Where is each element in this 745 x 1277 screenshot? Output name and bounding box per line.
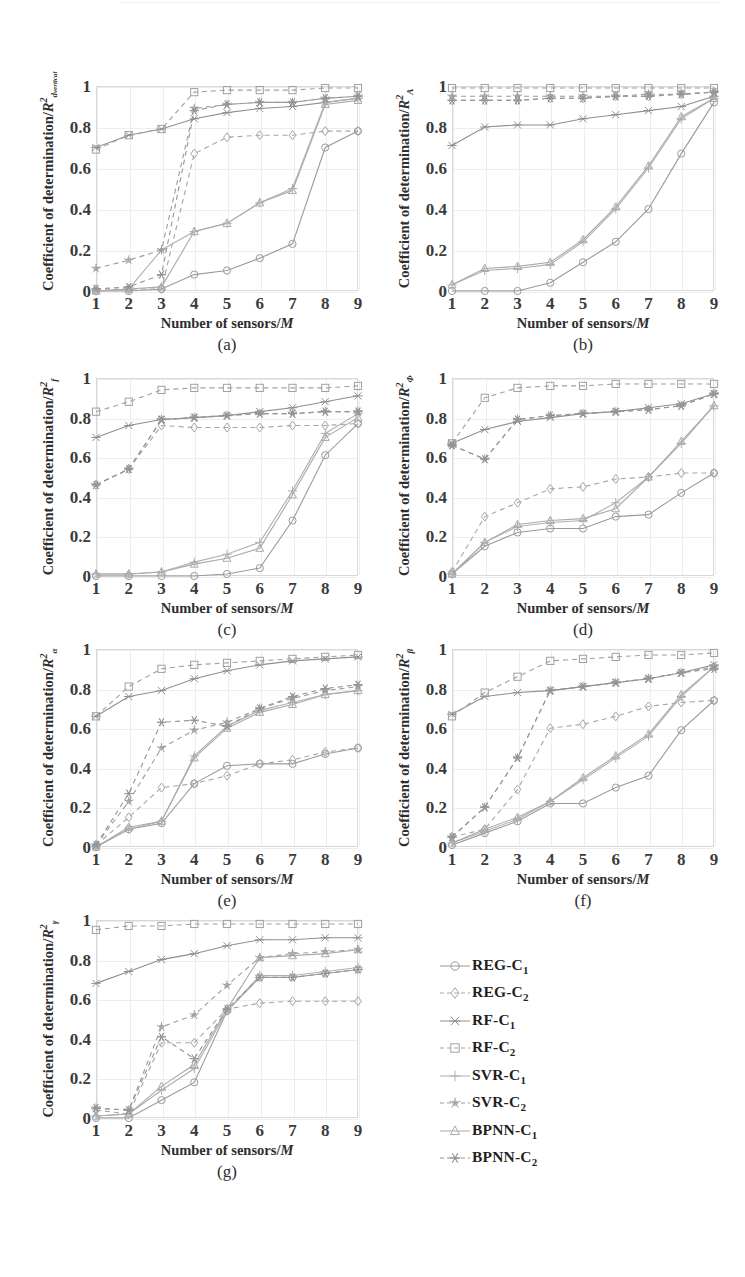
x-tick-label: 5 [579, 295, 588, 312]
x-tick-label: 5 [223, 295, 232, 312]
x-axis-title-f: Number of sensors/M [517, 871, 650, 888]
series-marker-SVR-C1 [157, 1086, 166, 1095]
y-axis-title-b: Coefficient of determination/R2A [394, 86, 415, 291]
y-tick-label: 0.6 [70, 720, 91, 737]
legend-item-SVRC1: SVR-C1 [438, 1062, 668, 1090]
series-marker-BPNN-C2 [190, 716, 199, 724]
x-tick-label: 9 [354, 295, 363, 312]
series-marker-SVR-C2 [157, 1022, 166, 1031]
x-tick-label: 3 [157, 851, 166, 868]
series-marker-RF-C1 [91, 980, 100, 987]
circle-marker [438, 956, 472, 976]
legend-item-BPNNC1: BPNN-C1 [438, 1117, 668, 1145]
asterisk-marker [438, 1148, 472, 1168]
series-line-BPNN-C2 [96, 685, 358, 845]
x-tick-label: 3 [157, 1122, 166, 1139]
series-marker-REG-C2 [158, 783, 165, 792]
y-tick-label: 0.2 [70, 242, 91, 259]
x-tick-label: 6 [612, 580, 621, 597]
x-tick-label: 7 [288, 851, 297, 868]
y-tick-label: 0.2 [426, 528, 447, 545]
y-tick-label: 0.6 [426, 160, 447, 177]
y-tick-label: 0.8 [426, 409, 447, 426]
series-layer-e [96, 649, 358, 847]
x-tick-label: 6 [256, 851, 265, 868]
x-tick-label: 6 [612, 851, 621, 868]
series-marker-BPNN-C2 [513, 96, 522, 104]
x-tick-label: 3 [513, 295, 522, 312]
series-layer-a [96, 86, 358, 291]
x-tick-label: 1 [92, 580, 101, 597]
series-marker-RF-C1 [222, 667, 231, 674]
y-tick-label: 1 [439, 641, 448, 658]
y-tick-label: 0.2 [426, 242, 447, 259]
x-tick-label: 1 [92, 851, 101, 868]
x-tick-label: 5 [579, 580, 588, 597]
subplot-caption-c: (c) [218, 620, 237, 640]
x-tick-label: 1 [92, 295, 101, 312]
subplot-c: 00.20.40.60.81123456789Number of sensors… [96, 378, 358, 576]
y-axis-title-a: Coefficient of determination/R2dvertical [38, 86, 59, 291]
x-axis-title-e: Number of sensors/M [161, 871, 294, 888]
series-marker-RF-C1 [480, 123, 489, 130]
y-tick-label: 0.8 [426, 680, 447, 697]
y-tick-label: 0 [439, 568, 448, 585]
x-tick-label: 8 [321, 295, 330, 312]
x-tick-label: 2 [481, 295, 490, 312]
subplot-f: 00.20.40.60.81123456789Number of sensors… [452, 649, 714, 847]
series-marker-RF-C1 [321, 398, 330, 405]
series-marker-SVR-C1 [255, 538, 264, 547]
y-tick-label: 1 [83, 78, 92, 95]
series-marker-RF-C1 [222, 109, 231, 116]
series-marker-RF-C1 [677, 103, 686, 110]
series-line-BPNN-C1 [452, 667, 714, 843]
legend-label: BPNN-C1 [472, 1121, 537, 1141]
series-marker-SVR-C1 [190, 1064, 199, 1073]
subplot-caption-d: (d) [573, 620, 593, 640]
x-tick-label: 9 [710, 580, 719, 597]
y-tick-label: 0 [83, 1110, 92, 1127]
y-tick-label: 0.6 [426, 720, 447, 737]
series-line-REG-C2 [96, 131, 358, 289]
x-tick-label: 7 [644, 851, 653, 868]
x-tick-label: 2 [125, 580, 134, 597]
x-tick-label: 4 [546, 295, 555, 312]
series-marker-REG-C2 [580, 720, 587, 729]
y-tick-label: 0.2 [70, 528, 91, 545]
x-tick-label: 9 [354, 851, 363, 868]
series-marker-SVR-C2 [222, 980, 231, 989]
subplot-a: 00.20.40.60.81123456789Number of sensors… [96, 86, 358, 291]
x-tick-label: 1 [448, 851, 457, 868]
series-layer-d [452, 378, 714, 576]
y-tick-label: 0.6 [70, 991, 91, 1008]
y-tick-label: 0 [83, 839, 92, 856]
y-tick-label: 1 [83, 641, 92, 658]
series-marker-RF-C1 [353, 934, 362, 941]
series-marker-REG-C2 [191, 149, 198, 158]
x-tick-label: 4 [546, 580, 555, 597]
series-marker-RF-C1 [611, 111, 620, 118]
series-layer-f [452, 649, 714, 847]
y-tick-label: 1 [439, 78, 448, 95]
x-axis-title-c: Number of sensors/M [161, 600, 294, 617]
x-tick-label: 3 [157, 580, 166, 597]
legend-label: SVR-C2 [472, 1093, 526, 1113]
series-marker-RF-C1 [91, 434, 100, 441]
y-tick-label: 0.4 [426, 488, 447, 505]
series-marker-RF-C1 [513, 121, 522, 128]
y-tick-label: 0.8 [70, 680, 91, 697]
series-line-RF-C1 [96, 657, 358, 716]
gridline-vertical [359, 650, 360, 846]
x-tick-label: 3 [513, 851, 522, 868]
x-tick-label: 6 [612, 295, 621, 312]
y-tick-label: 0.4 [426, 759, 447, 776]
x-tick-label: 1 [448, 295, 457, 312]
x-tick-label: 4 [190, 1122, 199, 1139]
y-axis-title-e: Coefficient of determination/R2α [38, 649, 59, 847]
series-line-REG-C1 [96, 748, 358, 847]
series-marker-RF-C1 [157, 687, 166, 694]
series-line-SVR-C1 [96, 98, 358, 291]
y-tick-label: 0.8 [70, 119, 91, 136]
legend-item-RFC2: RF-C2 [438, 1035, 668, 1063]
x-axis-title-a: Number of sensors/M [161, 315, 294, 332]
